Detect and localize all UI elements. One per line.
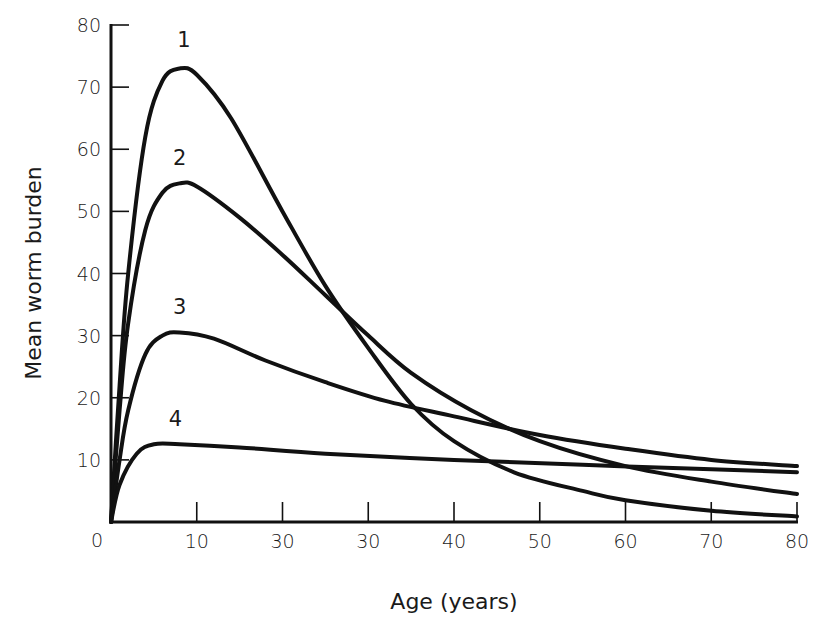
x-tick-label: 40 [442, 530, 466, 552]
x-tick-label: 30 [270, 530, 294, 552]
y-tick-label: 30 [77, 325, 101, 347]
curve-3 [111, 332, 797, 522]
y-tick-label: 80 [77, 14, 101, 36]
origin-label: 0 [91, 529, 103, 551]
y-tick-label: 40 [77, 263, 101, 285]
x-tick-label: 80 [785, 530, 809, 552]
curve-label-1: 1 [177, 28, 190, 52]
curve-label-3: 3 [173, 295, 186, 319]
y-tick-label: 20 [77, 387, 101, 409]
x-axis-title: Age (years) [390, 589, 517, 614]
curves [111, 68, 797, 522]
y-axis-title: Mean worm burden [21, 166, 46, 379]
plot-area: 1020304050607080 1030304050607080 1234 [77, 14, 809, 552]
x-tick-label: 60 [613, 530, 637, 552]
y-tick-label: 50 [77, 200, 101, 222]
curve-1 [111, 68, 797, 522]
x-tick-label: 50 [528, 530, 552, 552]
curve-labels: 1234 [169, 28, 191, 431]
y-tick-label: 10 [77, 449, 101, 471]
curve-label-4: 4 [169, 407, 182, 431]
y-tick-label: 60 [77, 138, 101, 160]
x-tick-label: 10 [185, 530, 209, 552]
curve-label-2: 2 [173, 146, 186, 170]
x-tick-label: 70 [699, 530, 723, 552]
y-tick-label: 70 [77, 76, 101, 98]
worm-burden-chart: 1020304050607080 1030304050607080 1234 0… [0, 0, 821, 630]
curve-2 [111, 182, 797, 522]
x-tick-label: 30 [356, 530, 380, 552]
